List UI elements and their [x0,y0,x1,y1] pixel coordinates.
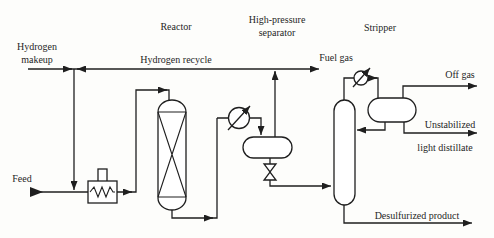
label-distillate-line1: Unstabilized [425,119,476,130]
label-reactor: Reactor [160,21,192,32]
feed-stream-arrow [30,187,43,197]
process-flow-diagram: Hydrogen makeup Reactor High-pressure se… [0,0,494,238]
pipe-reflux-return [362,122,385,130]
valve-upper-triangle [264,164,276,172]
effluent-cooler [228,106,250,130]
reactor-vessel [158,100,186,210]
label-desulfurized-product: Desulfurized product [375,210,460,221]
stripper-column [334,100,355,205]
reflux-drum [368,98,416,122]
label-hp-separator-line1: High-pressure [249,14,306,25]
label-stripper: Stripper [364,22,397,33]
valve-lower-triangle [264,172,276,180]
label-distillate-line2: light distillate [417,142,473,153]
feed-furnace-heater [88,169,117,203]
equipment [88,68,416,210]
label-off-gas: Off gas [445,69,475,80]
label-hp-separator-line2: separator [259,27,296,38]
high-pressure-separator-drum [243,137,292,158]
letdown-valve [264,164,276,180]
label-hydrogen-makeup-line2: makeup [21,54,53,65]
overhead-condenser [353,68,370,87]
furnace-chimney [98,169,107,182]
label-fuel-gas: Fuel gas [319,52,353,63]
pipe-off-gas [403,86,471,98]
label-feed: Feed [12,173,31,184]
label-hydrogen-recycle: Hydrogen recycle [140,54,212,65]
label-hydrogen-makeup-line1: Hydrogen [17,41,57,52]
pipe-valve-to-stripper [270,180,325,186]
